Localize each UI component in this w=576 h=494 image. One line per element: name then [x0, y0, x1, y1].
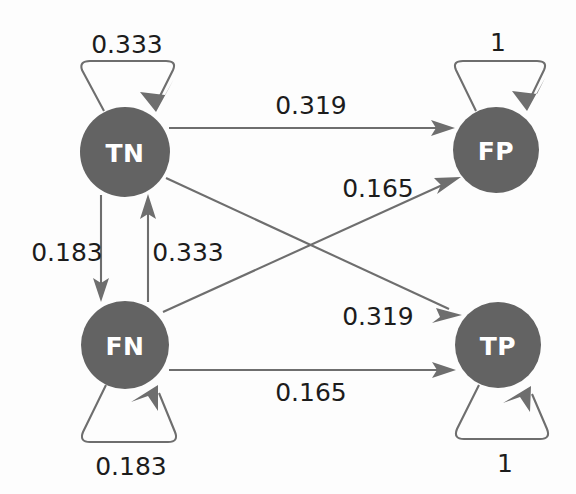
node-fp[interactable]: FP	[453, 107, 539, 193]
edge-fn-tp: 0.165	[169, 362, 456, 407]
edge-label-tn-tp: 0.319	[342, 302, 414, 331]
node-fn[interactable]: FN	[81, 301, 169, 389]
arrowhead-fn-fn	[131, 385, 158, 411]
self-loop-path-fp	[455, 61, 545, 111]
arrowhead-tn-tn	[140, 79, 174, 112]
edge-tn-fn: 0.183	[31, 195, 109, 302]
edge-fn-fn: 0.183	[82, 385, 176, 481]
edge-label-fp-fp: 1	[490, 28, 506, 57]
node-label-tp: TP	[480, 332, 516, 361]
node-tp[interactable]: TP	[455, 302, 541, 388]
edge-label-fn-tp: 0.165	[275, 378, 347, 407]
edge-label-tn-tn: 0.333	[91, 30, 163, 59]
arrowhead-fn-fp	[434, 177, 461, 194]
edge-label-fn-tn: 0.333	[152, 238, 224, 267]
graph-canvas: 0.333 1 0.183 1 0.319	[0, 0, 576, 494]
edge-label-fn-fn: 0.183	[95, 452, 167, 481]
edge-tn-tn: 0.333	[81, 30, 174, 113]
node-label-fn: FN	[105, 332, 144, 361]
edge-tp-tp: 1	[456, 385, 548, 478]
arrowhead-tn-tp	[432, 308, 462, 323]
state-transition-diagram: 0.333 1 0.183 1 0.319	[0, 0, 576, 494]
arrowhead-fp-fp	[512, 78, 545, 111]
edge-fn-tn: 0.333	[140, 194, 224, 302]
self-loop-path-fn	[82, 385, 176, 442]
node-label-fp: FP	[478, 137, 514, 166]
edge-label-tn-fp: 0.319	[275, 91, 347, 120]
edge-label-fn-fp: 0.165	[342, 174, 414, 203]
edge-fp-fp: 1	[455, 28, 545, 112]
self-loop-path-tp	[456, 385, 548, 439]
arrowhead-tp-tp	[503, 386, 531, 412]
edge-label-tp-tp: 1	[497, 449, 513, 478]
edge-label-tn-fn: 0.183	[31, 238, 103, 267]
node-label-tn: TN	[106, 139, 145, 168]
node-tn[interactable]: TN	[80, 107, 170, 197]
edge-tn-fp: 0.319	[169, 91, 455, 137]
